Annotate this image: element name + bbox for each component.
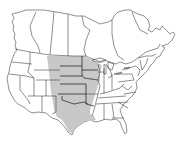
range-map [0, 0, 181, 141]
